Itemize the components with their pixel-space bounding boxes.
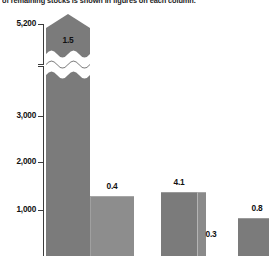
bar-3-value-label: 4.1 — [159, 177, 199, 187]
y-tick-3000 — [38, 116, 44, 117]
bar-5 — [238, 218, 269, 256]
bar-1 — [46, 14, 90, 256]
chart-figure: of remaining stocks is shown in figures … — [0, 0, 269, 256]
bar-2-value-label: 0.4 — [90, 181, 134, 191]
bar-5-value-label: 0.8 — [236, 203, 269, 213]
plot-area: 5,200 3,000 2,000 1,000 1.5 0.4 4.1 — [0, 14, 269, 256]
bar-1-shape — [46, 14, 90, 256]
y-axis-label-2000-wrap: 2,000 — [0, 158, 36, 166]
y-axis-label-3000: 3,000 — [0, 112, 36, 120]
bar-2 — [90, 196, 134, 256]
y-tick-1000 — [38, 210, 44, 211]
figure-caption: of remaining stocks is shown in figures … — [2, 0, 268, 5]
y-tick-break — [38, 64, 44, 65]
y-tick-break-lower — [38, 66, 44, 67]
y-axis-label-5200-wrap: 5,200 — [0, 20, 36, 28]
y-axis-label-2000: 2,000 — [0, 158, 36, 166]
y-axis-label-1000-wrap: 1,000 — [0, 206, 36, 214]
bar-1-value-label: 1.5 — [46, 35, 90, 45]
bar-4-value-label: 0.3 — [196, 229, 226, 239]
y-axis-upper-segment — [43, 24, 44, 64]
bar-3 — [161, 192, 197, 256]
y-tick-2000 — [38, 162, 44, 163]
y-axis-label-1000: 1,000 — [0, 206, 36, 214]
y-axis-label-3000-wrap: 3,000 — [0, 112, 36, 120]
y-axis-lower-segment — [43, 66, 44, 256]
y-axis-label-5200: 5,200 — [0, 20, 36, 28]
y-tick-5200 — [38, 24, 44, 25]
bar-4 — [197, 192, 206, 256]
